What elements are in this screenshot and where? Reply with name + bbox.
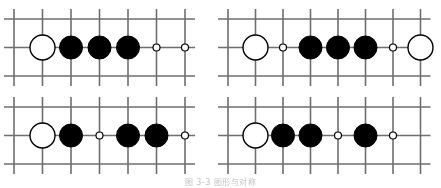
empty-intersection-marker[interactable] (153, 44, 160, 51)
empty-intersection-marker[interactable] (390, 132, 397, 139)
black-stone[interactable] (299, 124, 322, 147)
white-stone[interactable] (30, 123, 55, 148)
empty-intersection-marker[interactable] (182, 132, 189, 139)
black-stone[interactable] (88, 36, 111, 59)
empty-intersection-marker[interactable] (96, 132, 103, 139)
black-stone[interactable] (145, 124, 168, 147)
black-stone[interactable] (327, 36, 350, 59)
black-stone[interactable] (117, 124, 140, 147)
white-stone[interactable] (408, 35, 433, 60)
black-stone[interactable] (299, 36, 322, 59)
panel-top-right (214, 5, 435, 90)
figure-caption: 图 3-3 图形与对称 (0, 177, 441, 188)
black-stone[interactable] (60, 124, 83, 147)
panel-bottom-left (0, 93, 199, 178)
black-stone[interactable] (117, 36, 140, 59)
white-stone[interactable] (243, 35, 268, 60)
black-stone[interactable] (60, 36, 83, 59)
empty-intersection-marker[interactable] (390, 44, 397, 51)
black-stone[interactable] (354, 36, 377, 59)
empty-intersection-marker[interactable] (182, 44, 189, 51)
stones-layer (243, 123, 397, 148)
white-stone[interactable] (243, 123, 268, 148)
empty-intersection-marker[interactable] (335, 132, 342, 139)
go-diagram-figure (0, 0, 441, 188)
empty-intersection-marker[interactable] (280, 44, 287, 51)
white-stone[interactable] (30, 35, 55, 60)
panel-bottom-right (214, 93, 435, 178)
black-stone[interactable] (272, 124, 295, 147)
black-stone[interactable] (354, 124, 377, 147)
panel-top-left (0, 5, 199, 90)
